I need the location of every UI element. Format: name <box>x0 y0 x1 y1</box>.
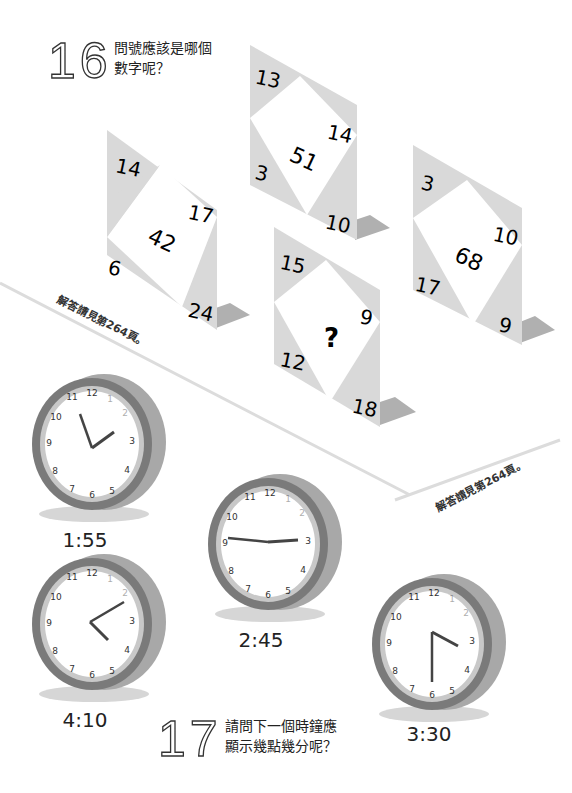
svg-text:5: 5 <box>285 586 291 596</box>
svg-text:1: 1 <box>107 574 113 584</box>
svg-text:5: 5 <box>109 666 115 676</box>
svg-text:3: 3 <box>129 616 135 626</box>
svg-text:7: 7 <box>409 684 415 694</box>
svg-text:4: 4 <box>124 465 130 475</box>
svg-text:6: 6 <box>429 690 435 700</box>
svg-text:12: 12 <box>428 588 439 598</box>
svg-text:2: 2 <box>122 408 128 418</box>
clock-2-label: 2:45 <box>221 628 301 652</box>
clock-3-label: 4:10 <box>45 708 125 732</box>
svg-text:3: 3 <box>129 436 135 446</box>
svg-text:9: 9 <box>46 438 52 448</box>
puzzle-17-question: 請問下一個時鐘應 顯示幾點幾分呢？ <box>225 716 337 756</box>
svg-text:9: 9 <box>222 538 228 548</box>
card-c-bottom-right: 18 <box>350 394 380 423</box>
card-d-left-bottom: 17 <box>413 272 443 301</box>
svg-text:11: 11 <box>66 572 77 582</box>
clock-2: 11121 234 567 8910 <box>198 472 348 622</box>
svg-text:3: 3 <box>469 636 475 646</box>
svg-text:3: 3 <box>305 536 311 546</box>
svg-text:2: 2 <box>299 508 305 518</box>
puzzle-17-question-line1: 請問下一個時鐘應 <box>225 716 337 736</box>
svg-text:8: 8 <box>392 666 398 676</box>
puzzle-16-number: 16 <box>48 36 112 86</box>
clock-1-label: 1:55 <box>45 528 125 552</box>
svg-text:7: 7 <box>245 584 251 594</box>
svg-text:2: 2 <box>463 608 469 618</box>
number-card-c: 15 9 12 18 ? <box>268 222 428 452</box>
svg-text:11: 11 <box>408 592 419 602</box>
card-c-center-question-mark: ? <box>324 323 339 353</box>
svg-text:9: 9 <box>46 618 52 628</box>
svg-text:8: 8 <box>52 466 58 476</box>
svg-text:4: 4 <box>124 645 130 655</box>
svg-text:10: 10 <box>50 592 62 602</box>
card-c-left-bottom: 12 <box>278 347 308 376</box>
svg-text:1: 1 <box>449 594 455 604</box>
svg-text:8: 8 <box>228 566 234 576</box>
svg-text:7: 7 <box>69 664 75 674</box>
svg-text:12: 12 <box>86 568 97 578</box>
svg-text:6: 6 <box>265 590 271 600</box>
puzzle-16-question-line1: 問號應該是哪個 <box>114 38 212 58</box>
card-a-bottom-right: 24 <box>186 298 216 327</box>
svg-text:11: 11 <box>66 392 77 402</box>
svg-text:11: 11 <box>244 492 255 502</box>
svg-text:2: 2 <box>122 588 128 598</box>
puzzle-17-question-line2: 顯示幾點幾分呢？ <box>225 736 337 756</box>
svg-text:5: 5 <box>449 686 455 696</box>
svg-text:1: 1 <box>285 494 291 504</box>
svg-text:1: 1 <box>107 394 113 404</box>
clock-3: 11121 234 567 8910 <box>22 552 172 702</box>
svg-text:12: 12 <box>264 488 275 498</box>
svg-text:4: 4 <box>300 565 306 575</box>
svg-text:6: 6 <box>89 670 95 680</box>
puzzle-17-number: 17 <box>158 714 222 764</box>
clock-1: 11121 234 567 8910 <box>22 372 172 522</box>
svg-text:10: 10 <box>390 612 402 622</box>
number-card-d: 3 10 17 9 68 <box>405 140 570 370</box>
svg-text:4: 4 <box>464 665 470 675</box>
svg-text:7: 7 <box>69 484 75 494</box>
puzzle-16-question-line2: 數字呢？ <box>114 58 212 78</box>
svg-text:5: 5 <box>109 486 115 496</box>
clock-4: 11121 234 567 8910 <box>362 572 512 722</box>
svg-text:10: 10 <box>226 512 238 522</box>
puzzle-16-question: 問號應該是哪個 數字呢？ <box>114 38 212 78</box>
svg-text:12: 12 <box>86 388 97 398</box>
card-a-left-bottom: 6 <box>106 255 123 281</box>
clock-4-label: 3:30 <box>389 722 469 746</box>
svg-text:8: 8 <box>52 646 58 656</box>
svg-text:6: 6 <box>89 490 95 500</box>
svg-text:9: 9 <box>386 638 392 648</box>
svg-text:10: 10 <box>50 412 62 422</box>
clock-2-hour-hand <box>268 540 298 542</box>
